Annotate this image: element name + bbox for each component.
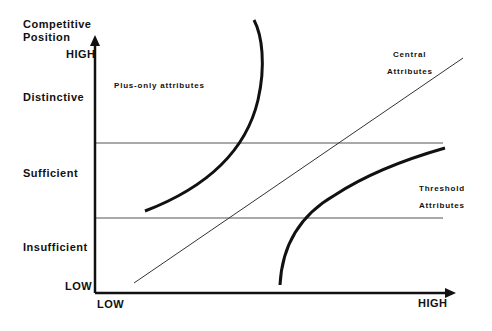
central-region-label-line1: Central	[393, 50, 426, 59]
central-region-label-line2: Attributes	[387, 67, 433, 76]
threshold-curve	[280, 148, 445, 285]
x-axis-low-label: LOW	[97, 298, 124, 310]
y-axis-arrow-icon	[90, 35, 100, 46]
y-axis-high-label: HIGH	[66, 48, 96, 60]
band-label-distinctive: Distinctive	[23, 91, 84, 103]
x-axis-high-label: HIGH	[418, 297, 448, 309]
band-label-sufficient: Sufficient	[23, 167, 78, 179]
y-axis-low-label: LOW	[65, 280, 92, 292]
threshold-region-label-line2: Attributes	[419, 201, 465, 210]
plus-only-curve	[145, 20, 262, 211]
threshold-region-label-line1: Threshold	[419, 184, 465, 193]
y-axis-title-line1: Competitive	[23, 18, 91, 30]
central-diagonal-line	[134, 58, 463, 283]
band-label-insufficient: Insufficient	[23, 241, 88, 253]
plus-only-region-label: Plus-only attributes	[114, 81, 205, 90]
y-axis-title-line2: Position	[23, 31, 70, 43]
